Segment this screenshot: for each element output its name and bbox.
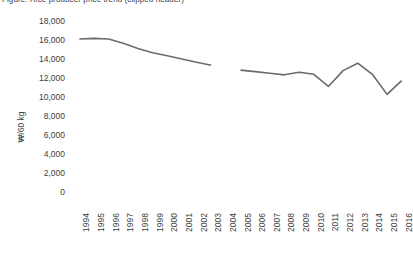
- y-tick-10000: 10,000: [39, 93, 65, 102]
- x-tick-2010: 2010: [317, 213, 326, 232]
- x-tick-1998: 1998: [141, 213, 150, 232]
- series-segment-2: [241, 63, 402, 94]
- y-axis-title: ₩/60 kg: [16, 111, 26, 142]
- x-tick-1994: 1994: [82, 213, 91, 232]
- plot-area: [72, 21, 409, 211]
- x-tick-2005: 2005: [244, 213, 253, 232]
- x-tick-2013: 2013: [361, 213, 370, 232]
- x-tick-2000: 2000: [170, 213, 179, 232]
- x-tick-2008: 2008: [287, 213, 296, 232]
- y-tick-8000: 8,000: [44, 112, 65, 121]
- y-tick-12000: 12,000: [39, 74, 65, 83]
- x-tick-2003: 2003: [214, 213, 223, 232]
- x-tick-2009: 2009: [302, 213, 311, 232]
- x-tick-1999: 1999: [156, 213, 165, 232]
- y-tick-4000: 4,000: [44, 150, 65, 159]
- x-tick-1995: 1995: [97, 213, 106, 232]
- x-tick-2006: 2006: [258, 213, 267, 232]
- x-tick-2011: 2011: [331, 213, 340, 231]
- y-tick-0: 0: [60, 188, 65, 197]
- x-tick-2012: 2012: [346, 213, 355, 232]
- y-tick-2000: 2,000: [44, 169, 65, 178]
- x-tick-2015: 2015: [390, 213, 399, 232]
- x-tick-2007: 2007: [273, 213, 282, 232]
- y-tick-14000: 14,000: [39, 55, 65, 64]
- y-tick-6000: 6,000: [44, 131, 65, 140]
- x-tick-2002: 2002: [200, 213, 209, 232]
- x-tick-2001: 2001: [185, 213, 194, 232]
- y-tick-16000: 16,000: [39, 36, 65, 45]
- x-tick-1996: 1996: [112, 213, 121, 232]
- x-tick-1997: 1997: [126, 213, 135, 232]
- y-tick-18000: 18,000: [39, 17, 65, 26]
- y-axis-tick-labels: 18,000 16,000 14,000 12,000 10,000 8,000…: [0, 0, 70, 254]
- line-chart: Figure: Rice producer price trend (clipp…: [0, 0, 413, 254]
- x-tick-2016: 2016: [405, 213, 413, 232]
- data-line-series: [72, 21, 409, 211]
- x-tick-2014: 2014: [375, 213, 384, 232]
- series-segment-1: [79, 38, 211, 65]
- x-tick-2004: 2004: [229, 213, 238, 232]
- x-axis-tick-labels: 1994199519961997199819992000200120022003…: [72, 213, 409, 254]
